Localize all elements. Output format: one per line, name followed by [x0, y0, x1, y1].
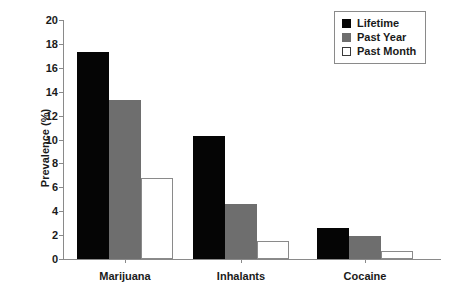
y-axis-tick-mark: [59, 140, 63, 141]
y-axis-tick-label: 0: [52, 254, 58, 265]
y-axis-tick-label: 12: [46, 110, 58, 121]
y-axis-tick-label: 16: [46, 62, 58, 73]
legend-item: Lifetime: [342, 17, 416, 30]
bar: [317, 228, 349, 259]
x-axis-category-label: Cocaine: [344, 270, 387, 282]
gray-square-icon: [342, 33, 351, 42]
y-axis-tick-label: 14: [46, 86, 58, 97]
bar: [77, 52, 109, 259]
black-square-icon: [342, 19, 351, 28]
legend-item: Past Month: [342, 45, 416, 58]
bar: [349, 236, 381, 259]
y-axis-tick-label: 6: [52, 182, 58, 193]
bar: [381, 251, 413, 259]
x-axis-line: [63, 259, 441, 260]
bar: [109, 100, 141, 259]
y-axis-tick-mark: [59, 187, 63, 188]
white-square-icon: [342, 47, 351, 56]
x-axis-category-label: Inhalants: [217, 270, 265, 282]
y-axis-tick-mark: [59, 92, 63, 93]
bar: [193, 136, 225, 259]
y-axis-tick-label: 2: [52, 230, 58, 241]
x-axis-tick-mark: [125, 259, 126, 263]
y-axis-tick-mark: [59, 211, 63, 212]
bar: [225, 204, 257, 259]
legend-item-label: Past Month: [357, 46, 416, 57]
bar-chart-figure: Prevalence (%) 02468101214161820 Marijua…: [0, 0, 456, 295]
y-axis-tick-mark: [59, 68, 63, 69]
x-axis-tick-mark: [241, 259, 242, 263]
y-axis-tick-mark: [59, 163, 63, 164]
legend-item-label: Past Year: [357, 32, 406, 43]
y-axis-tick-mark: [59, 235, 63, 236]
chart-legend: Lifetime Past Year Past Month: [334, 11, 426, 64]
y-axis-tick-mark: [59, 20, 63, 21]
legend-item: Past Year: [342, 31, 416, 44]
bar: [257, 241, 289, 259]
x-axis-category-label: Marijuana: [99, 270, 150, 282]
bar: [141, 178, 173, 259]
y-axis-tick-label: 18: [46, 38, 58, 49]
y-axis-tick-label: 8: [52, 158, 58, 169]
y-axis-tick-mark: [59, 259, 63, 260]
y-axis-tick-label: 10: [46, 134, 58, 145]
y-axis-tick-mark: [59, 44, 63, 45]
y-axis-tick-label: 20: [46, 15, 58, 26]
y-axis-tick-mark: [59, 116, 63, 117]
legend-item-label: Lifetime: [357, 18, 399, 29]
y-axis-tick-label: 4: [52, 206, 58, 217]
x-axis-tick-mark: [365, 259, 366, 263]
